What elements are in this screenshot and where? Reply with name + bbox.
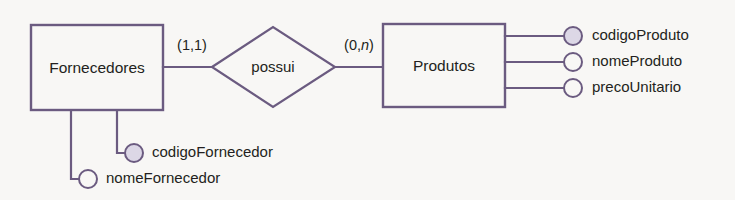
cardinality-right-max: n [361,37,369,53]
cardinality-right-suffix: ) [369,37,374,53]
relationship-label-possui: possui [251,58,294,75]
cardinality-left-max: 1 [194,37,202,53]
attribute-label-nome-produto: nomeProduto [592,52,682,69]
cardinality-right-prefix: (0, [344,37,361,53]
attribute-label-nome-fornecedor: nomeFornecedor [106,169,220,186]
attribute-label-codigo-produto: codigoProduto [592,26,689,43]
entity-label-produtos: Produtos [413,57,475,74]
er-diagram-svg: Fornecedores (1,1) possui (0,n) Produtos… [0,0,735,200]
attribute-label-preco-unitario: precoUnitario [592,78,681,95]
attribute-circle-nome-produto[interactable] [564,53,582,71]
attribute-connector-nome-fornecedor [71,110,79,179]
entity-label-fornecedores: Fornecedores [49,59,145,76]
attribute-circle-nome-fornecedor[interactable] [79,170,97,188]
attribute-circle-codigo-fornecedor[interactable] [125,144,143,162]
attribute-label-codigo-fornecedor: codigoFornecedor [152,143,273,160]
attribute-circle-codigo-produto[interactable] [564,27,582,45]
cardinality-left-prefix: (1, [177,37,194,53]
cardinality-left-suffix: ) [202,37,207,53]
attribute-circle-preco-unitario[interactable] [564,79,582,97]
cardinality-left: (1,1) [177,37,207,53]
cardinality-right: (0,n) [344,37,374,53]
er-diagram-canvas: Fornecedores (1,1) possui (0,n) Produtos… [0,0,735,200]
attribute-connector-codigo-fornecedor [117,110,125,153]
